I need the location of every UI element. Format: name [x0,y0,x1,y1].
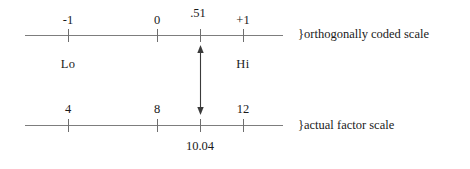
coded-tick-label-point-fiftyone: .51 [190,7,206,20]
actual-scale-caption: }actual factor scale [298,118,394,132]
coded-tick-zero [157,29,158,42]
coded-tick-plus-one [243,29,244,42]
actual-tick-label-twelve: 12 [237,103,250,116]
coded-tick-label-minus-one: -1 [63,14,73,27]
coded-tick-label-plus-one: +1 [236,14,249,27]
actual-tick-four [68,119,69,132]
actual-tick-value [200,119,201,132]
level-label-hi: Hi [236,58,249,71]
actual-value-label: 10.04 [186,140,214,153]
scale-alignment-figure: -1 0 .51 +1 }orthogonally coded scale Lo… [0,0,470,169]
coded-scale-caption: }orthogonally coded scale [298,27,429,41]
actual-scale-axis [25,125,283,126]
actual-tick-twelve [243,119,244,132]
level-label-lo: Lo [61,58,76,71]
coded-tick-label-zero: 0 [154,14,160,27]
actual-tick-label-eight: 8 [154,103,160,116]
coded-tick-minus-one [68,29,69,42]
actual-tick-label-four: 4 [65,103,71,116]
actual-tick-eight [157,119,158,132]
coded-scale-axis [25,35,283,36]
coded-tick-point-fiftyone [200,29,201,42]
